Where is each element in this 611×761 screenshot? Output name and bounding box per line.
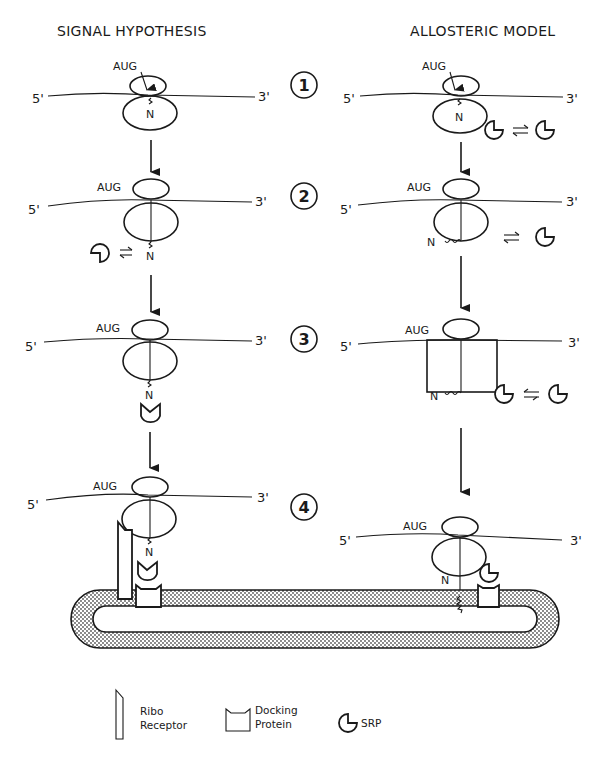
- svg-text:3': 3': [570, 533, 582, 548]
- svg-text:Ribo: Ribo: [140, 705, 163, 717]
- equilibrium-icon: [504, 232, 519, 243]
- legend: Ribo Receptor Docking Protein SRP: [116, 690, 381, 739]
- svg-text:N: N: [427, 236, 435, 249]
- svg-text:N: N: [145, 546, 153, 559]
- svg-text:5': 5': [343, 91, 355, 106]
- step-4-marker: 4: [291, 494, 317, 520]
- srp-icon: [495, 385, 513, 403]
- svg-text:3': 3': [255, 194, 267, 209]
- signal-step-1: 5' 3' AUG N: [32, 60, 270, 130]
- legend-srp: SRP: [339, 714, 381, 732]
- step-3-marker: 3: [291, 326, 317, 352]
- svg-text:5': 5': [339, 533, 351, 548]
- svg-text:AUG: AUG: [403, 520, 427, 533]
- svg-text:N: N: [441, 574, 449, 587]
- equilibrium-icon: [120, 247, 132, 258]
- svg-text:5': 5': [27, 497, 39, 512]
- svg-text:AUG: AUG: [422, 60, 446, 73]
- equilibrium-icon: [524, 389, 539, 400]
- svg-text:3': 3': [566, 91, 578, 106]
- srp-model-diagram: SIGNAL HYPOTHESIS ALLOSTERIC MODEL 1 2 3…: [0, 0, 611, 761]
- svg-text:N: N: [146, 250, 154, 263]
- svg-text:SRP: SRP: [361, 717, 381, 729]
- signal-step-3: 5' 3' AUG N: [25, 320, 267, 422]
- svg-text:3': 3': [255, 333, 267, 348]
- equilibrium-icon: [513, 125, 528, 136]
- svg-text:3: 3: [298, 330, 309, 349]
- svg-text:AUG: AUG: [93, 480, 117, 493]
- svg-text:3': 3': [568, 335, 580, 350]
- svg-text:5': 5': [25, 339, 37, 354]
- svg-text:Docking: Docking: [255, 704, 298, 716]
- svg-text:AUG: AUG: [113, 60, 137, 73]
- step-2-marker: 2: [291, 183, 317, 209]
- svg-text:AUG: AUG: [96, 322, 120, 335]
- svg-text:N: N: [145, 389, 153, 402]
- conformational-ribosome: [427, 340, 497, 392]
- svg-text:5': 5': [32, 91, 44, 106]
- svg-text:5': 5': [340, 339, 352, 354]
- signal-step-4: 5' 3' AUG N: [27, 477, 269, 580]
- docking-protein: [478, 585, 499, 607]
- svg-text:AUG: AUG: [97, 181, 121, 194]
- allosteric-step-4: 5' 3' AUG N: [339, 517, 582, 596]
- srp-icon: [485, 121, 503, 139]
- svg-text:3': 3': [258, 89, 270, 104]
- svg-text:N: N: [146, 108, 154, 121]
- srp-bound-icon: [138, 562, 157, 580]
- svg-text:1: 1: [298, 76, 309, 95]
- svg-text:5': 5': [340, 202, 352, 217]
- step-1-marker: 1: [291, 72, 317, 98]
- allosteric-step-3: 5' 3' AUG N: [340, 319, 580, 403]
- allosteric-model-title: ALLOSTERIC MODEL: [410, 23, 555, 39]
- svg-text:3': 3': [566, 194, 578, 209]
- svg-text:2: 2: [298, 187, 309, 206]
- svg-text:3': 3': [257, 490, 269, 505]
- signal-hypothesis-title: SIGNAL HYPOTHESIS: [57, 23, 207, 39]
- svg-text:4: 4: [298, 498, 309, 517]
- svg-text:Receptor: Receptor: [140, 719, 188, 731]
- svg-text:Protein: Protein: [255, 718, 292, 730]
- allosteric-step-1: 5' 3' AUG N: [343, 60, 578, 139]
- srp-icon: [549, 385, 567, 403]
- svg-text:N: N: [455, 111, 463, 124]
- svg-text:AUG: AUG: [405, 324, 429, 337]
- srp-icon: [339, 714, 357, 732]
- svg-text:5': 5': [28, 202, 40, 217]
- srp-icon: [91, 244, 109, 262]
- srp-icon: [536, 228, 554, 246]
- allosteric-step-2: 5' 3' AUG N: [340, 179, 578, 249]
- srp-icon: [536, 121, 554, 139]
- docking-protein: [136, 585, 161, 607]
- svg-text:AUG: AUG: [407, 181, 431, 194]
- signal-step-2: 5' 3' AUG N: [28, 179, 267, 263]
- legend-docking-protein: Docking Protein: [226, 704, 298, 731]
- ribo-receptor: [118, 522, 132, 599]
- small-ribosome-subunit: [130, 76, 166, 96]
- srp-icon: [480, 564, 498, 582]
- srp-bound-icon: [141, 404, 160, 422]
- legend-ribo-receptor: Ribo Receptor: [116, 690, 188, 739]
- svg-text:N: N: [430, 390, 438, 403]
